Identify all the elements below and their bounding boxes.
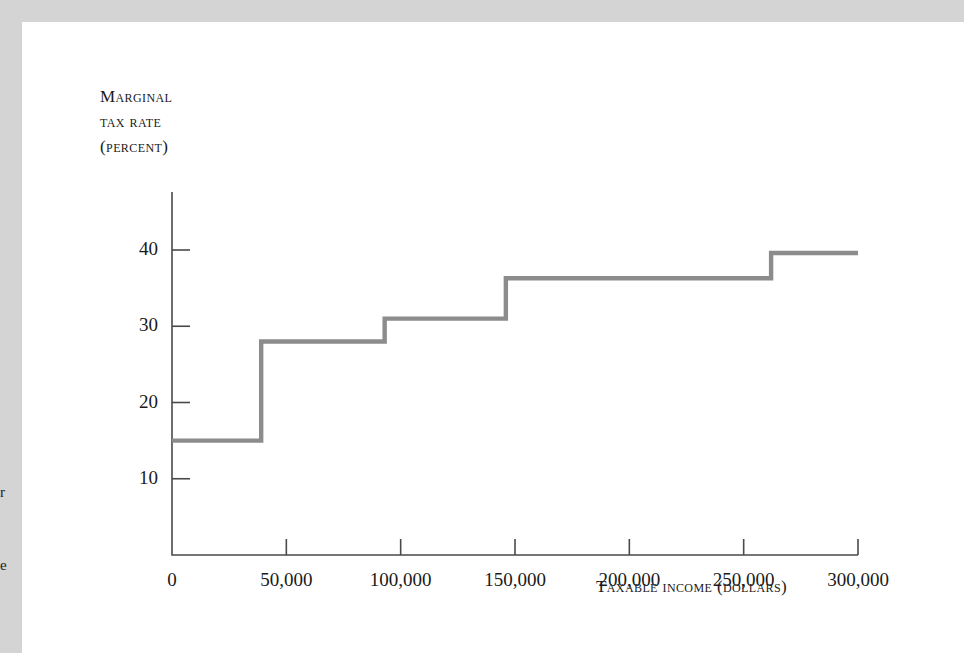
x-tick-label: 50,000 xyxy=(231,569,341,591)
y-axis-title-line-1: Marginal xyxy=(100,84,172,109)
y-axis-title-line-2: tax rate xyxy=(100,109,172,134)
axis-lines xyxy=(172,192,858,555)
y-tick-label: 20 xyxy=(118,391,158,413)
margin-text-fragment-one: r xyxy=(0,485,8,500)
tick-marks xyxy=(172,250,858,555)
margin-text-fragment-two: e xyxy=(0,558,8,573)
y-axis-title: Marginal tax rate (percent) xyxy=(100,84,172,159)
axes xyxy=(172,192,858,555)
x-axis-title: Taxable income (dollars) xyxy=(596,574,787,599)
x-tick-label: 300,000 xyxy=(803,569,913,591)
data-series xyxy=(172,253,858,441)
page-frame: r e 10203040 050,000100,000150,000200,00… xyxy=(0,0,964,653)
x-tick-label: 100,000 xyxy=(346,569,456,591)
figure-panel: 10203040 050,000100,000150,000200,000250… xyxy=(22,22,964,653)
y-tick-label: 10 xyxy=(118,467,158,489)
x-tick-label: 150,000 xyxy=(460,569,570,591)
y-axis-title-line-3: (percent) xyxy=(100,134,172,159)
marginal-tax-rate-step-line xyxy=(172,253,858,441)
y-tick-label: 30 xyxy=(118,314,158,336)
x-tick-label: 0 xyxy=(117,569,227,591)
y-tick-label: 40 xyxy=(118,238,158,260)
